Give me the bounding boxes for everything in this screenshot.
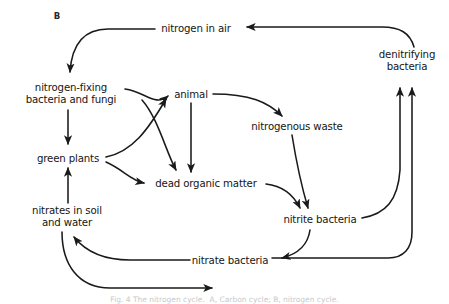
node-denitrifying-bacteria: denitrifying bacteria [379, 49, 435, 72]
panel-letter-b: B [54, 11, 60, 21]
edge-nitrite-to-denitrifying [362, 88, 400, 218]
edge-green-plants-to-animal [106, 99, 166, 157]
node-nitrogenous-waste: nitrogenous waste [251, 121, 343, 133]
edge-nitrate-bacteria-to-nitrates-soil [74, 237, 190, 260]
node-nitrite-bacteria: nitrite bacteria [283, 214, 356, 226]
edge-nitrogen-air-to-fixing [70, 29, 155, 72]
node-nitrogen-in-air: nitrogen in air [161, 23, 230, 35]
node-nitrates-in-soil-and-water: nitrates in soil and water [32, 205, 102, 228]
edge-dead-organic-to-nitrite [266, 184, 300, 208]
edge-nitrite-to-nitrate-bacteria [282, 230, 310, 258]
node-nitrate-bacteria: nitrate bacteria [192, 255, 269, 267]
edge-green-plants-to-dead-organic [106, 162, 144, 183]
nitrogen-cycle-diagram: B nitrogen in air denitrifying bacteria … [0, 0, 449, 304]
edge-denitrifying-to-nitrogen-air [247, 27, 414, 47]
node-animal: animal [174, 89, 208, 101]
figure-caption: Fig. 4 The nitrogen cycle. A, Carbon cyc… [0, 295, 449, 304]
edge-nitrate-to-denitrifying [272, 88, 412, 258]
edge-animal-to-nitrogenous-waste [213, 94, 282, 116]
edge-fixing-to-animal [125, 89, 168, 100]
node-nitrogen-fixing-bacteria-and-fungi: nitrogen-fixing bacteria and fungi [26, 82, 117, 105]
edge-nitrogenous-waste-to-nitrite [292, 135, 308, 208]
node-green-plants: green plants [37, 153, 99, 165]
node-dead-organic-matter: dead organic matter [155, 178, 257, 190]
